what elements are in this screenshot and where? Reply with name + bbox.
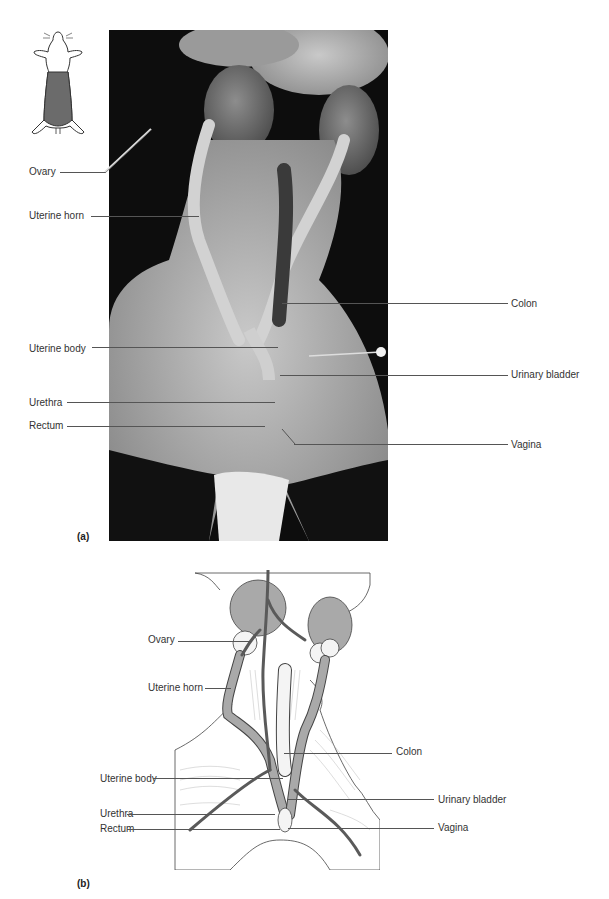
leader-b-urethra [127,814,275,815]
leader-b-urinary-bladder [288,799,434,800]
label-a-vagina: Vagina [511,439,541,451]
leader-b-colon [284,753,392,754]
anatomical-illustration [170,570,380,870]
leader-a-ovary [60,172,106,173]
label-a-urethra: Urethra [29,397,62,409]
label-b-ovary: Ovary [148,634,175,646]
leader-a-urethra [67,402,275,403]
leader-a-ovary-diagonal [104,128,152,174]
label-b-vagina: Vagina [438,822,468,834]
leader-b-uterine-body [153,778,283,779]
leader-a-uterine-horn [91,216,199,217]
leader-b-ovary [178,641,252,642]
leader-a-vagina [294,444,508,445]
label-a-colon: Colon [511,298,537,310]
leader-a-colon [282,303,508,304]
label-b-colon: Colon [396,746,422,758]
leader-b-vagina [288,828,434,829]
leader-a-urinary-bladder [280,375,508,376]
label-a-uterine-horn: Uterine horn [29,210,84,222]
leader-a-uterine-body [92,347,278,348]
label-a-rectum: Rectum [29,420,63,432]
label-b-urinary-bladder: Urinary bladder [438,794,506,806]
leader-b-rectum [127,829,280,830]
dissection-photograph [109,30,388,541]
label-b-uterine-body: Uterine body [100,773,157,785]
label-a-urinary-bladder: Urinary bladder [511,369,579,381]
panel-letter-a: (a) [77,531,89,542]
label-a-uterine-body: Uterine body [29,343,86,355]
rat-orientation-icon [28,28,88,138]
leader-b-uterine-horn [205,688,231,689]
label-a-ovary: Ovary [29,166,56,178]
label-b-uterine-horn: Uterine horn [148,682,203,694]
leader-a-rectum [67,426,265,427]
panel-letter-b: (b) [77,878,90,889]
